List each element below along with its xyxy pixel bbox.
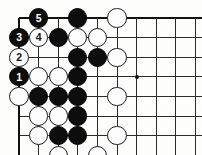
board-line-vertical (175, 18, 176, 155)
white-stone (29, 67, 48, 86)
move-number-label: 4 (30, 29, 47, 46)
black-stone (29, 87, 48, 106)
move-number-label: 1 (10, 68, 27, 85)
move-stone-5: 5 (29, 8, 48, 27)
black-stone (68, 8, 87, 27)
white-stone (107, 48, 126, 67)
move-number-label: 2 (10, 49, 27, 66)
black-stone (68, 87, 87, 106)
move-stone-3: 3 (9, 28, 28, 47)
move-number-label: 5 (30, 9, 47, 26)
black-stone (49, 87, 68, 106)
white-stone (29, 126, 48, 145)
black-stone (49, 28, 68, 47)
move-stone-2: 2 (9, 48, 28, 67)
white-stone (49, 106, 68, 125)
go-diagram: 12345 (0, 0, 202, 155)
white-stone (49, 146, 68, 155)
black-stone (49, 126, 68, 145)
board-line-vertical (136, 18, 137, 155)
white-stone (107, 8, 126, 27)
white-stone (88, 28, 107, 47)
white-stone (9, 87, 28, 106)
move-stone-1: 1 (9, 67, 28, 86)
black-stone (88, 48, 107, 67)
black-stone (68, 106, 87, 125)
black-stone (68, 48, 87, 67)
white-stone (49, 67, 68, 86)
white-stone (68, 28, 87, 47)
black-stone (68, 126, 87, 145)
star-point (135, 75, 139, 79)
move-stone-4: 4 (29, 28, 48, 47)
move-number-label: 3 (10, 29, 27, 46)
white-stone (107, 126, 126, 145)
go-board-grid: 12345 (0, 0, 202, 155)
white-stone (88, 146, 107, 155)
board-line-vertical (156, 18, 157, 155)
black-stone (68, 67, 87, 86)
white-stone (107, 87, 126, 106)
board-line-vertical (195, 18, 196, 155)
white-stone (29, 106, 48, 125)
